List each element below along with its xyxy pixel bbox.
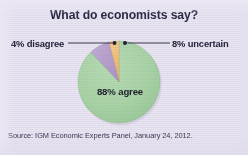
leader-dot-disagree (113, 41, 117, 45)
leader-dot-uncertain (123, 41, 127, 45)
slice-label-agree: 88% agree (86, 86, 154, 97)
chart-title: What do economists say? (0, 8, 248, 22)
slice-label-disagree: 4% disagree (11, 38, 64, 49)
chart-figure: What do economists say? 4% disagree 8% u… (0, 0, 248, 155)
slice-label-uncertain: 8% uncertain (172, 38, 229, 49)
source-note: Source: IGM Economic Experts Panel, Janu… (8, 131, 193, 140)
